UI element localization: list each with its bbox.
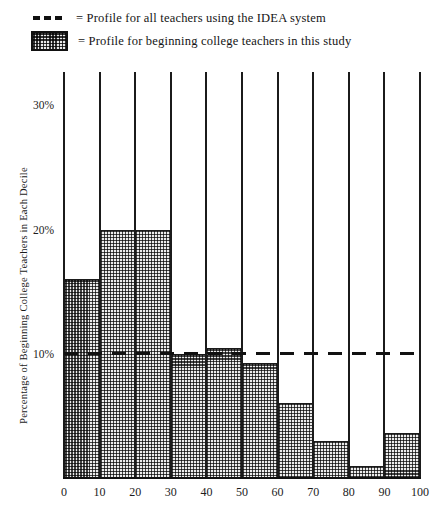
plot-area [64, 72, 420, 478]
bar [171, 354, 207, 478]
x-tick-label: 20 [129, 485, 141, 500]
bar [278, 403, 314, 478]
vertical-gridline [419, 72, 421, 478]
x-tick-label: 60 [272, 485, 284, 500]
x-tick-label: 50 [236, 485, 248, 500]
y-tick-label: 20% [8, 224, 54, 236]
y-tick-label: 30% [8, 99, 54, 111]
bar [64, 279, 100, 478]
x-tick-label: 70 [307, 485, 319, 500]
bar [242, 363, 278, 479]
vertical-gridline [383, 72, 385, 478]
x-tick-label: 100 [411, 485, 429, 500]
x-tick-label: 0 [61, 485, 67, 500]
x-tick-label: 10 [94, 485, 106, 500]
x-tick-label: 80 [343, 485, 355, 500]
x-tick-label: 40 [200, 485, 212, 500]
reference-line-all-teachers [64, 352, 420, 355]
bar [313, 441, 349, 478]
y-tick-label: 10% [8, 348, 54, 360]
bar [206, 348, 242, 478]
x-axis-baseline [63, 477, 421, 480]
x-tick-label: 90 [378, 485, 390, 500]
vertical-gridline [348, 72, 350, 478]
chart-root: = Profile for all teachers using the IDE… [0, 0, 433, 519]
x-tick-label: 30 [165, 485, 177, 500]
bar [384, 433, 420, 478]
